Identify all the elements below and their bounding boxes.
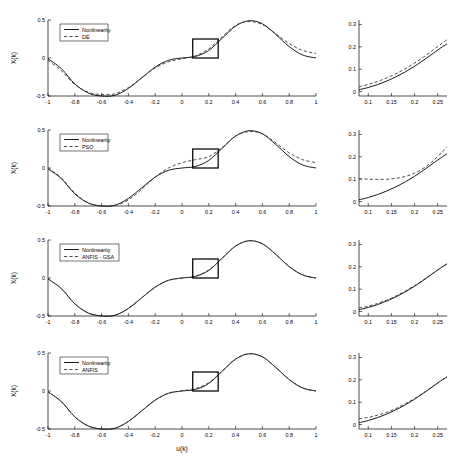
x-tick-label: 1 bbox=[315, 209, 318, 215]
y-tick-label: 0 bbox=[42, 275, 45, 281]
x-tick-label: -0.6 bbox=[97, 319, 106, 325]
x-tick-label: -1 bbox=[46, 319, 51, 325]
y-axis-label: X(k) bbox=[10, 272, 18, 284]
y-tick-label: -0.5 bbox=[36, 426, 45, 432]
inset-axes-spine bbox=[359, 20, 447, 96]
inset-y-tick-label: 0 bbox=[353, 422, 356, 428]
x-tick-label: 1 bbox=[315, 432, 318, 438]
inset-y-tick-label: 0.3 bbox=[349, 241, 357, 247]
x-tick-label: 0 bbox=[181, 319, 184, 325]
x-tick-label: -0.4 bbox=[124, 432, 133, 438]
x-tick-label: -0.2 bbox=[151, 209, 160, 215]
y-axis-label: X(k) bbox=[10, 52, 18, 64]
inset-x-tick-label: 0.15 bbox=[386, 99, 397, 105]
legend-label-nonlinearity: Nonlinearity bbox=[82, 137, 111, 143]
legend-label-method: DE bbox=[82, 34, 90, 40]
x-tick-label: 0 bbox=[181, 432, 184, 438]
x-tick-label: 0.8 bbox=[285, 319, 293, 325]
x-axis-label: u(k) bbox=[176, 445, 187, 453]
x-tick-label: 1 bbox=[315, 319, 318, 325]
x-tick-label: 0 bbox=[181, 99, 184, 105]
x-tick-label: 0 bbox=[181, 209, 184, 215]
inset-x-tick-label: 0.15 bbox=[386, 319, 397, 325]
main-plot-panel: -1-0.8-0.6-0.4-0.200.20.40.60.81-0.500.5… bbox=[0, 116, 330, 226]
x-tick-label: 0.6 bbox=[259, 99, 267, 105]
x-tick-label: -1 bbox=[46, 99, 51, 105]
inset-y-tick-label: 0.2 bbox=[349, 377, 357, 383]
x-tick-label: -0.2 bbox=[151, 99, 160, 105]
main-plot-panel: -1-0.8-0.6-0.4-0.200.20.40.60.81-0.500.5… bbox=[0, 6, 330, 116]
inset-y-tick-label: 0.3 bbox=[349, 131, 357, 137]
x-tick-label: -0.8 bbox=[70, 432, 79, 438]
inset-y-tick-label: 0.1 bbox=[349, 286, 357, 292]
x-tick-label: -0.8 bbox=[70, 209, 79, 215]
inset-x-tick-label: 0.25 bbox=[432, 99, 443, 105]
y-tick-label: -0.5 bbox=[36, 203, 45, 209]
figure-container: -1-0.8-0.6-0.4-0.200.20.40.60.81-0.500.5… bbox=[0, 0, 454, 465]
inset-y-tick-label: 0 bbox=[353, 89, 356, 95]
subplot-row: -1-0.8-0.6-0.4-0.200.20.40.60.81-0.500.5… bbox=[0, 226, 454, 336]
inset-y-tick-label: 0.2 bbox=[349, 44, 357, 50]
x-tick-label: 0.6 bbox=[259, 432, 267, 438]
subplot-row: -1-0.8-0.6-0.4-0.200.20.40.60.81-0.500.5… bbox=[0, 6, 454, 116]
subplot-row: -1-0.8-0.6-0.4-0.200.20.40.60.81-0.500.5… bbox=[0, 116, 454, 226]
y-tick-label: 0 bbox=[42, 388, 45, 394]
y-axis-label: X(k) bbox=[10, 385, 18, 397]
y-tick-label: 0 bbox=[42, 165, 45, 171]
inset-x-tick-label: 0.15 bbox=[386, 432, 397, 438]
x-tick-label: 0.2 bbox=[205, 99, 213, 105]
inset-y-tick-label: 0.2 bbox=[349, 264, 357, 270]
legend-label-nonlinearity: Nonlinearity bbox=[82, 27, 111, 33]
y-tick-label: 0.5 bbox=[38, 237, 46, 243]
x-tick-label: 0.2 bbox=[205, 319, 213, 325]
inset-plot-panel: 0.10.150.20.2500.10.20.3 bbox=[330, 116, 454, 226]
inset-x-tick-label: 0.1 bbox=[365, 99, 373, 105]
inset-x-tick-label: 0.25 bbox=[432, 209, 443, 215]
inset-y-tick-label: 0.3 bbox=[349, 354, 357, 360]
x-tick-label: -1 bbox=[46, 432, 51, 438]
x-tick-label: -0.6 bbox=[97, 209, 106, 215]
inset-x-tick-label: 0.2 bbox=[411, 432, 419, 438]
y-tick-label: 0.5 bbox=[38, 350, 46, 356]
y-tick-label: -0.5 bbox=[36, 93, 45, 99]
x-tick-label: -0.2 bbox=[151, 319, 160, 325]
main-plot-panel: -1-0.8-0.6-0.4-0.200.20.40.60.81-0.500.5… bbox=[0, 339, 330, 449]
x-tick-label: 0.4 bbox=[232, 99, 240, 105]
inset-x-tick-label: 0.1 bbox=[365, 319, 373, 325]
x-tick-label: -0.4 bbox=[124, 99, 133, 105]
x-tick-label: 0.4 bbox=[232, 319, 240, 325]
x-tick-label: -1 bbox=[46, 209, 51, 215]
legend-label-method: PSO bbox=[82, 144, 93, 150]
inset-y-tick-label: 0.1 bbox=[349, 176, 357, 182]
inset-x-tick-label: 0.2 bbox=[411, 209, 419, 215]
x-tick-label: -0.2 bbox=[151, 432, 160, 438]
x-tick-label: 0.6 bbox=[259, 319, 267, 325]
inset-x-tick-label: 0.2 bbox=[411, 319, 419, 325]
x-tick-label: -0.4 bbox=[124, 209, 133, 215]
inset-curve-solid bbox=[359, 264, 447, 310]
y-axis-label: X(k) bbox=[10, 162, 18, 174]
inset-plot-panel: 0.10.150.20.2500.10.20.3 bbox=[330, 339, 454, 449]
inset-plot-panel: 0.10.150.20.2500.10.20.3 bbox=[330, 226, 454, 336]
y-tick-label: 0.5 bbox=[38, 17, 46, 23]
inset-axes-spine bbox=[359, 130, 447, 206]
x-tick-label: -0.4 bbox=[124, 319, 133, 325]
x-tick-label: 0.2 bbox=[205, 432, 213, 438]
inset-curve-dashed bbox=[359, 40, 447, 87]
zoom-highlight-box bbox=[193, 149, 218, 168]
x-tick-label: 0.2 bbox=[205, 209, 213, 215]
x-tick-label: -0.8 bbox=[70, 99, 79, 105]
x-tick-label: 0.6 bbox=[259, 209, 267, 215]
inset-y-tick-label: 0 bbox=[353, 199, 356, 205]
legend-label-nonlinearity: Nonlinearity bbox=[82, 247, 111, 253]
inset-y-tick-label: 0.1 bbox=[349, 399, 357, 405]
legend-label-method: ANFIS - GSA bbox=[82, 254, 114, 260]
inset-curve-dashed bbox=[359, 377, 447, 419]
x-tick-label: 0.4 bbox=[232, 209, 240, 215]
zoom-highlight-box bbox=[193, 259, 218, 278]
inset-curve-solid bbox=[359, 377, 447, 423]
inset-x-tick-label: 0.2 bbox=[411, 99, 419, 105]
inset-plot-panel: 0.10.150.20.2500.10.20.3 bbox=[330, 6, 454, 116]
inset-axes-spine bbox=[359, 353, 447, 429]
inset-y-tick-label: 0.2 bbox=[349, 154, 357, 160]
